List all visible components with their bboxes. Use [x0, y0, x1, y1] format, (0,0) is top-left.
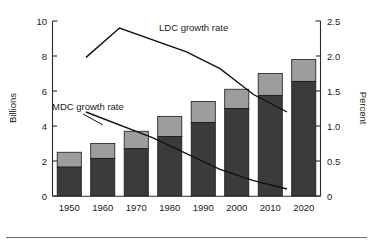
left-tick-label-10: 10: [36, 16, 47, 27]
x-tick-label: 1990: [193, 202, 214, 213]
bar-group: [57, 152, 81, 196]
bar-segment-ldc: [225, 109, 249, 197]
left-tick-label-4: 4: [42, 121, 47, 132]
bar-group: [191, 102, 215, 197]
bar-segment-mdc: [91, 144, 115, 159]
mdc-growth-rate-label: MDC growth rate: [52, 101, 124, 112]
bar-segment-mdc: [225, 89, 249, 108]
x-tick-label: 2020: [293, 202, 314, 213]
bar-segment-ldc: [292, 81, 316, 196]
bar-group: [91, 144, 115, 197]
right-tick-label-1p5: 1.5: [327, 86, 340, 97]
bar-group: [258, 74, 282, 197]
bar-segment-mdc: [292, 60, 316, 82]
bar-group: [124, 131, 148, 196]
bar-segment-mdc: [158, 116, 182, 136]
right-axis-title: Percent: [358, 92, 369, 125]
x-tick-label: 2010: [260, 202, 281, 213]
left-axis-title: Billions: [7, 93, 18, 123]
x-tick-label: 1970: [126, 202, 147, 213]
bar-segment-ldc: [258, 95, 282, 196]
bar-segment-ldc: [191, 123, 215, 197]
left-tick-label-2: 2: [42, 156, 47, 167]
dual-axis-bar-line-chart: 0 2 4 6 8 10 Billions 0 0.5: [0, 0, 373, 247]
bar-segment-mdc: [124, 131, 148, 149]
x-tick-label: 1960: [92, 202, 113, 213]
x-tick-label: 2000: [226, 202, 247, 213]
bar-segment-ldc: [91, 158, 115, 196]
x-tick-label: 1950: [59, 202, 80, 213]
left-tick-label-6: 6: [42, 86, 47, 97]
ldc-growth-rate-label: LDC growth rate: [159, 22, 228, 33]
left-tick-label-8: 8: [42, 51, 47, 62]
chart-background: [0, 0, 373, 247]
population-growth-figure: 0 2 4 6 8 10 Billions 0 0.5: [0, 0, 373, 247]
bar-segment-mdc: [191, 102, 215, 123]
x-tick-label: 1980: [159, 202, 180, 213]
bar-segment-mdc: [258, 74, 282, 96]
bar-segment-mdc: [57, 152, 81, 167]
footer-divider: [6, 237, 367, 238]
bar-segment-ldc: [124, 149, 148, 196]
right-tick-label-2p0: 2.0: [327, 51, 340, 62]
right-tick-label-0: 0: [327, 191, 332, 202]
left-tick-label-0: 0: [42, 191, 47, 202]
right-tick-label-0p5: 0.5: [327, 156, 340, 167]
right-tick-label-1p0: 1.0: [327, 121, 340, 132]
bar-segment-ldc: [57, 167, 81, 196]
bar-group: [158, 116, 182, 196]
bar-group: [225, 89, 249, 196]
right-tick-label-2p5: 2.5: [327, 16, 340, 27]
bar-group: [292, 60, 316, 197]
